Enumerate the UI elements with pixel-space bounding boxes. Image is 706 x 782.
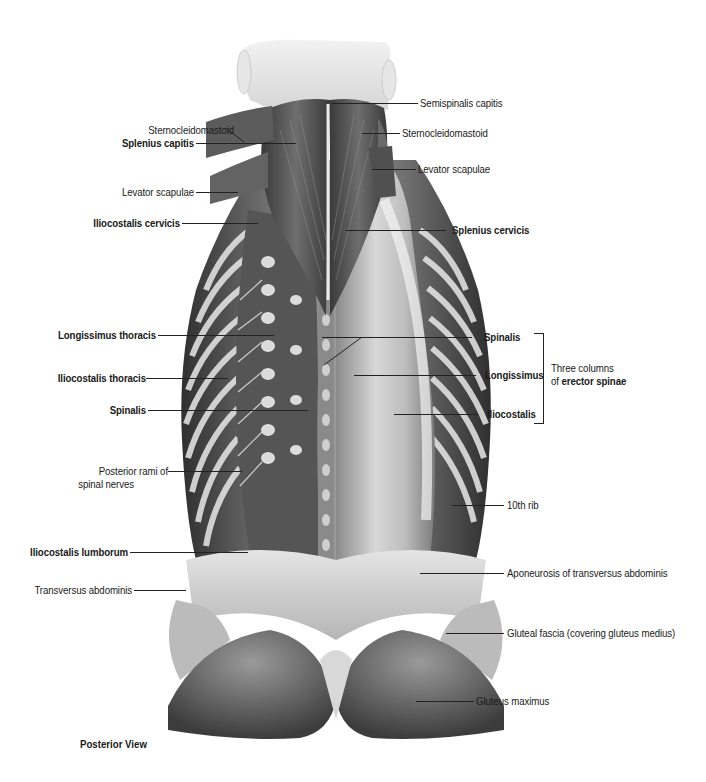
label-erector-spinae: of erector spinae <box>551 375 626 387</box>
leader-line-transversus-abdominis <box>134 590 186 591</box>
label-spinalis-right: Spinalis <box>484 331 520 343</box>
leader-line-splenius-cervicis <box>346 230 446 231</box>
view-caption: Posterior View <box>80 738 147 750</box>
label-sternocleidomastoid-right: Sternocleidomastoid <box>402 127 488 139</box>
label-longissimus-thoracis: Longissimus thoracis <box>31 329 156 341</box>
label-three-columns: Three columns <box>551 362 614 374</box>
leader-line-posterior-rami <box>168 471 242 472</box>
leader-line-iliocostalis-thoracis <box>146 378 228 379</box>
posterior-back-muscles-illustration <box>0 0 706 782</box>
label-iliocostalis-lumborum: Iliocostalis lumborum <box>29 546 128 558</box>
leader-line-iliocostalis <box>394 414 478 415</box>
label-gluteus-maximus: Gluteus maximus <box>476 695 549 707</box>
label-spinalis-left: Spinalis <box>67 404 146 416</box>
erector-spinae-bracket <box>534 333 544 424</box>
label-transversus-abdominis: Transversus abdominis <box>20 584 132 596</box>
label-levator-scapulae-right: Levator scapulae <box>418 163 490 175</box>
label-iliocostalis-thoracis: Iliocostalis thoracis <box>30 372 146 384</box>
leader-line-tenth-rib <box>452 505 504 506</box>
leader-line-semispinalis-capitis <box>332 103 418 104</box>
label-sternocleidomastoid-left: Sternocleidomastoid <box>102 124 234 136</box>
label-splenius-capitis: Splenius capitis <box>71 137 194 149</box>
leader-line-longissimus <box>354 375 476 376</box>
leader-line-gluteus-maximus <box>416 701 474 702</box>
label-aponeurosis-transversus: Aponeurosis of transversus abdominis <box>507 567 667 579</box>
leader-line-levator-scapulae-left <box>196 192 238 193</box>
leader-line-sternocleidomastoid-right <box>362 133 400 134</box>
leader-line-sternocleidomastoid-left <box>226 128 246 144</box>
leader-line-longissimus-thoracis <box>158 335 274 336</box>
label-levator-scapulae-left: Levator scapulae <box>71 186 194 198</box>
label-posterior-rami: Posterior rami of <box>41 465 168 477</box>
label-splenius-cervicis: Splenius cervicis <box>452 224 529 236</box>
leader-line-gluteal-fascia <box>446 633 504 634</box>
label-erector-spinae-bold: erector spinae <box>561 375 626 387</box>
label-erector-spinae-prefix: of <box>551 375 561 387</box>
leader-line-aponeurosis-transversus <box>420 573 504 574</box>
leader-line-splenius-capitis <box>196 143 296 144</box>
label-gluteal-fascia: Gluteal fascia (covering gluteus medius) <box>507 627 675 639</box>
label-posterior-rami-line2: spinal nerves <box>38 478 134 490</box>
label-iliocostalis: Iliocostalis <box>487 408 536 420</box>
label-semispinalis-capitis: Semispinalis capitis <box>420 97 502 109</box>
leader-line-spinalis-left <box>148 410 308 411</box>
label-tenth-rib: 10th rib <box>507 499 538 511</box>
leader-line-iliocostalis-lumborum <box>130 552 248 553</box>
label-iliocostalis-cervicis: Iliocostalis cervicis <box>51 217 180 229</box>
leader-line-iliocostalis-cervicis <box>182 223 258 224</box>
leader-line-spinalis-right-branch <box>322 337 364 367</box>
leader-line-levator-scapulae-right <box>372 169 416 170</box>
